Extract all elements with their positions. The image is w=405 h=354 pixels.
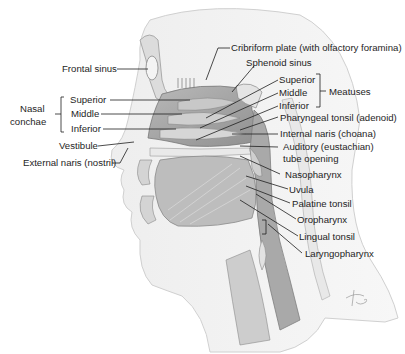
label-palatine-tonsil: Palatine tonsil xyxy=(292,198,352,209)
tongue xyxy=(155,156,256,226)
label-meatus-middle: Middle xyxy=(279,87,307,98)
label-pharyngeal-tonsil: Pharyngeal tonsil (adenoid) xyxy=(280,112,397,123)
label-concha-middle: Middle xyxy=(71,108,99,119)
label-meatus-inferior: Inferior xyxy=(279,100,309,111)
head-sagittal-illustration xyxy=(0,0,405,354)
label-internal-naris: Internal naris (choana) xyxy=(280,128,376,139)
label-meatus-superior: Superior xyxy=(279,74,315,85)
label-auditory-tube-line2: tube opening xyxy=(283,153,338,164)
label-oropharynx: Oropharynx xyxy=(297,214,347,225)
label-cribriform-plate: Cribriform plate (with olfactory foramin… xyxy=(231,42,402,53)
label-auditory-tube-line1: Auditory (eustachian) xyxy=(283,141,374,152)
label-nasopharynx: Nasopharynx xyxy=(285,169,342,180)
label-sphenoid-sinus: Sphenoid sinus xyxy=(246,57,312,68)
anatomy-diagram: Frontal sinus Nasal conchae Superior Mid… xyxy=(0,0,405,354)
label-meatuses: Meatuses xyxy=(329,86,371,97)
label-lingual-tonsil: Lingual tonsil xyxy=(299,231,355,242)
label-uvula: Uvula xyxy=(289,184,314,195)
label-vestibule: Vestibule xyxy=(59,140,98,151)
label-concha-inferior: Inferior xyxy=(71,123,101,134)
frontal-sinus-shape xyxy=(146,56,158,80)
label-nasal-conchae-line2: conchae xyxy=(10,116,46,127)
label-nasal-conchae-line1: Nasal xyxy=(20,103,45,114)
label-concha-superior: Superior xyxy=(70,94,106,105)
label-external-naris: External naris (nostril) xyxy=(23,157,116,168)
label-frontal-sinus: Frontal sinus xyxy=(62,63,117,74)
label-laryngopharynx: Laryngopharynx xyxy=(305,248,374,259)
